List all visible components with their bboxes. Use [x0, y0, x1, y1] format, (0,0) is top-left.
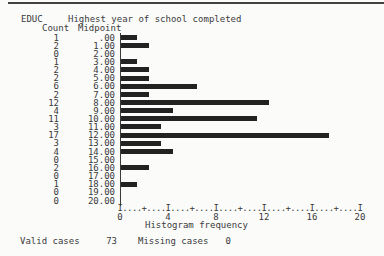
histogram-bar [121, 141, 161, 146]
missing-cases-value: 0 [216, 237, 231, 245]
top-rule-divider [8, 2, 384, 4]
count-value: 0 [30, 197, 59, 205]
midpoint-column-header: Midpoint [78, 24, 121, 32]
histogram-bar [121, 84, 197, 89]
histogram-bar [121, 43, 149, 48]
x-axis-tick-label: 16 [302, 213, 322, 221]
valid-cases-value: 73 [87, 237, 117, 245]
histogram-bar [121, 92, 149, 97]
missing-cases-label: Missing cases [138, 237, 208, 245]
x-axis-ruler: I....+....I....+....I....+....I....+....… [118, 204, 363, 212]
valid-cases-label: Valid cases [20, 237, 80, 245]
histogram-bar [121, 35, 137, 40]
spss-histogram-output: EDUC Highest year of school completed Co… [0, 0, 384, 256]
histogram-bar [121, 182, 137, 187]
histogram-bar [121, 59, 137, 64]
histogram-bar [121, 116, 257, 121]
count-column-header: Count [42, 24, 69, 32]
histogram-bar [121, 76, 149, 81]
variable-name: EDUC [21, 15, 43, 23]
midpoint-value: 20.00 [78, 197, 115, 205]
histogram-bar [121, 108, 173, 113]
x-axis-tick-label: 12 [254, 213, 274, 221]
histogram-bar [121, 124, 161, 129]
x-axis-tick-label: 0 [110, 213, 130, 221]
histogram-bar [121, 133, 329, 138]
histogram-bar [121, 100, 269, 105]
variable-label: Highest year of school completed [68, 15, 241, 23]
histogram-bar [121, 165, 149, 170]
histogram-bar [121, 149, 173, 154]
x-axis-title: Histogram frequency [145, 221, 248, 229]
histogram-bar [121, 67, 149, 72]
x-axis-tick-label: 20 [350, 213, 370, 221]
y-axis-line [120, 33, 121, 206]
